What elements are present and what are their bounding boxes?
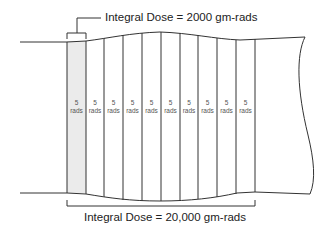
body-right-edge — [299, 37, 314, 194]
dose-unit: rads — [86, 107, 104, 115]
dose-unit: rads — [162, 107, 180, 115]
dose-unit: rads — [237, 107, 255, 115]
dose-value: 5 — [124, 99, 142, 107]
dose-unit: rads — [68, 107, 86, 115]
column-label: 5rads — [162, 99, 180, 114]
dose-value: 5 — [105, 99, 123, 107]
highlighted-column — [67, 41, 86, 193]
dose-unit: rads — [124, 107, 142, 115]
dose-value: 5 — [199, 99, 217, 107]
dose-value: 5 — [143, 99, 161, 107]
dose-value: 5 — [68, 99, 86, 107]
column-label: 5rads — [143, 99, 161, 114]
column-label: 5rads — [86, 99, 104, 114]
column-label: 5rads — [124, 99, 142, 114]
column-label: 5rads — [199, 99, 217, 114]
column-label: 5rads — [218, 99, 236, 114]
dose-value: 5 — [162, 99, 180, 107]
column-label: 5rads — [105, 99, 123, 114]
dose-value: 5 — [218, 99, 236, 107]
column-lines — [67, 32, 255, 201]
top-annotation: Integral Dose = 2000 gm-rads — [105, 11, 257, 23]
column-label: 5rads — [180, 99, 198, 114]
bottom-annotation: Integral Dose = 20,000 gm-rads — [0, 211, 330, 223]
dose-unit: rads — [180, 107, 198, 115]
dose-unit: rads — [199, 107, 217, 115]
dose-unit: rads — [143, 107, 161, 115]
dose-value: 5 — [180, 99, 198, 107]
dose-unit: rads — [105, 107, 123, 115]
top-bracket — [67, 33, 86, 39]
top-leader-line — [77, 18, 101, 33]
column-label: 5rads — [68, 99, 86, 114]
column-label: 5rads — [237, 99, 255, 114]
dose-unit: rads — [218, 107, 236, 115]
body-top-edge — [20, 32, 305, 42]
dose-value: 5 — [86, 99, 104, 107]
dose-value: 5 — [237, 99, 255, 107]
dose-diagram — [0, 0, 330, 229]
body-bottom-edge — [20, 192, 310, 201]
